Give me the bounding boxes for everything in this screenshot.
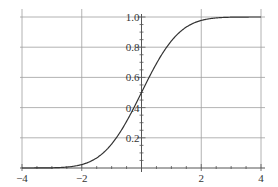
x-tick-label: 2 xyxy=(199,172,205,184)
x-tick-label: 4 xyxy=(258,172,264,184)
y-tick-label: 1.0 xyxy=(126,11,140,23)
y-tick-label: 0.2 xyxy=(126,132,140,144)
y-tick-label: 0.8 xyxy=(126,41,140,53)
y-tick-label: 0.4 xyxy=(126,102,140,114)
chart-canvas: −4−224 0.20.40.60.81.0 xyxy=(0,0,278,187)
x-tick-label: −4 xyxy=(16,172,28,184)
x-tick-labels: −4−224 xyxy=(16,172,264,184)
y-tick-labels: 0.20.40.60.81.0 xyxy=(126,11,140,144)
gridlines xyxy=(20,9,265,168)
axes xyxy=(20,14,265,172)
x-tick-label: −2 xyxy=(76,172,88,184)
sigmoid-chart: −4−224 0.20.40.60.81.0 xyxy=(0,0,278,187)
y-tick-label: 0.6 xyxy=(126,71,140,83)
